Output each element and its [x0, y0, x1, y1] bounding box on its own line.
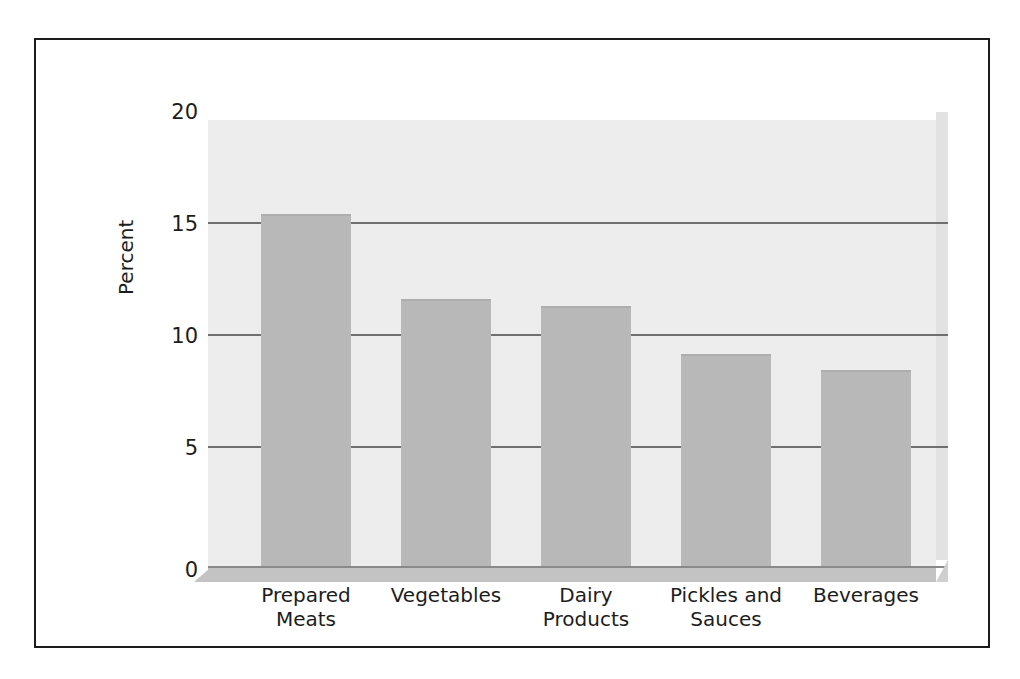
x-tick-line-1: Vegetables — [366, 584, 526, 608]
y-tick-label-20: 20 — [171, 102, 198, 123]
bar-top-edge — [401, 299, 491, 301]
x-tick-line-2: Products — [506, 608, 666, 632]
figure-canvas: Percent 20 15 10 5 0 — [0, 0, 1020, 679]
chart-frame-border: Percent 20 15 10 5 0 — [34, 38, 990, 648]
x-tick-label-pickles-and-sauces: Pickles and Sauces — [646, 584, 806, 631]
bar-prepared-meats[interactable] — [261, 214, 351, 568]
y-tick-label-5: 5 — [185, 438, 198, 459]
bar-dairy-products[interactable] — [541, 306, 631, 568]
plot-floor-right-bevel — [936, 560, 948, 582]
y-axis-tick-labels: 20 15 10 5 0 — [156, 112, 198, 568]
x-axis-tick-labels: Prepared Meats Vegetables Dairy Products… — [208, 584, 948, 648]
x-tick-label-vegetables: Vegetables — [366, 584, 526, 608]
x-tick-label-beverages: Beverages — [786, 584, 946, 608]
bar-top-edge — [681, 354, 771, 356]
x-tick-line-1: Dairy — [506, 584, 666, 608]
x-tick-label-dairy-products: Dairy Products — [506, 584, 666, 631]
bar-beverages[interactable] — [821, 370, 911, 568]
plot-floor — [208, 568, 936, 582]
x-tick-line-2: Sauces — [646, 608, 806, 632]
x-tick-line-1: Beverages — [786, 584, 946, 608]
bar-pickles-and-sauces[interactable] — [681, 354, 771, 568]
plot-side-wall — [936, 112, 948, 560]
y-axis-title: Percent — [114, 220, 138, 295]
bar-top-edge — [541, 306, 631, 308]
x-tick-label-prepared-meats: Prepared Meats — [226, 584, 386, 631]
x-tick-line-1: Pickles and — [646, 584, 806, 608]
y-tick-label-10: 10 — [171, 326, 198, 347]
y-tick-label-15: 15 — [171, 214, 198, 235]
bar-top-edge — [821, 370, 911, 372]
x-tick-line-1: Prepared — [226, 584, 386, 608]
plot-area — [208, 112, 948, 568]
bar-vegetables[interactable] — [401, 299, 491, 568]
bar-top-edge — [261, 214, 351, 216]
x-tick-line-2: Meats — [226, 608, 386, 632]
y-tick-label-0: 0 — [185, 560, 198, 581]
